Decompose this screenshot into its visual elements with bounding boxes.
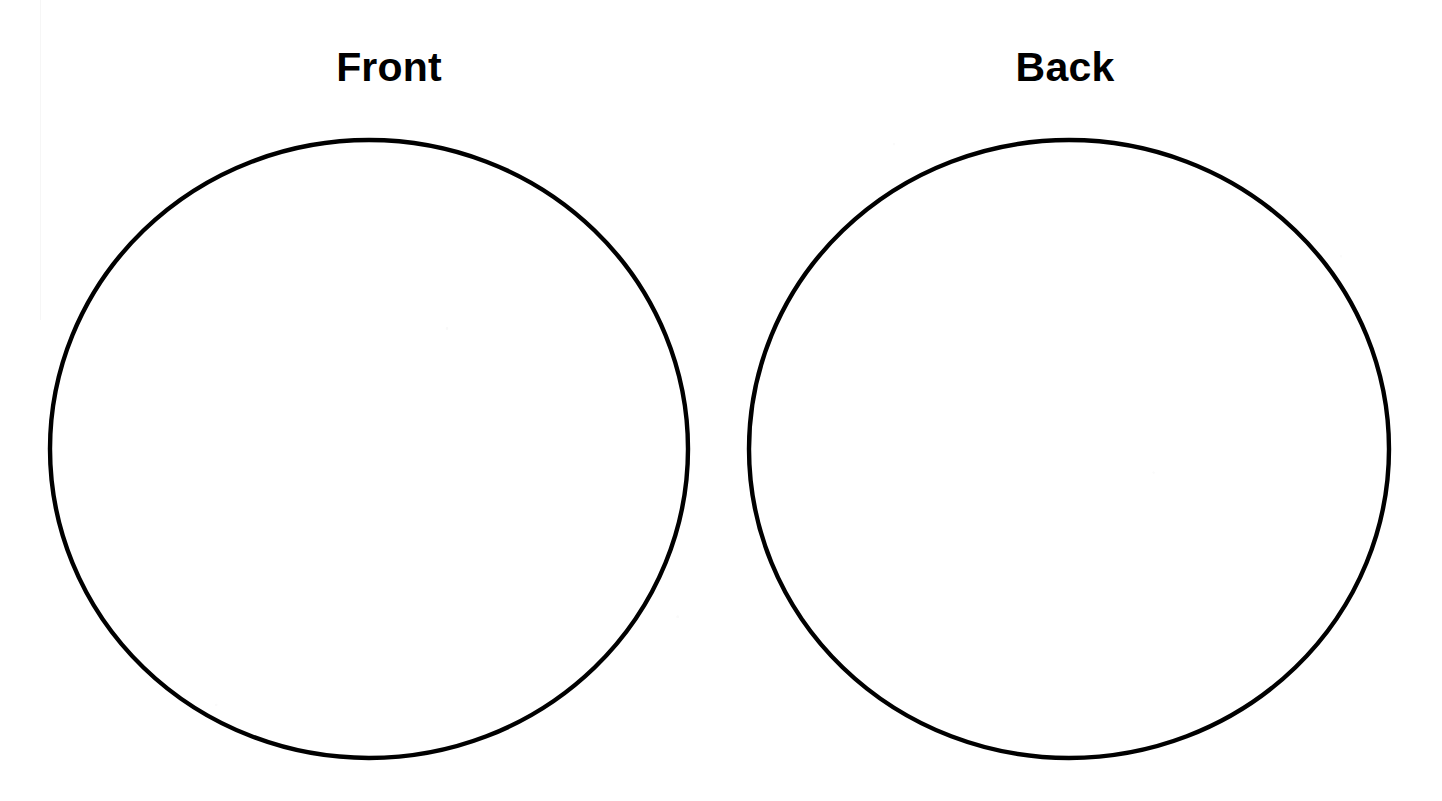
front-circle-label: Front: [0, 47, 778, 88]
circle-diagram: [0, 0, 1442, 801]
back-circle[interactable]: [749, 140, 1389, 758]
worksheet-page: Front Back: [0, 0, 1442, 801]
back-circle-label: Back: [689, 47, 1441, 88]
front-circle[interactable]: [50, 140, 688, 758]
